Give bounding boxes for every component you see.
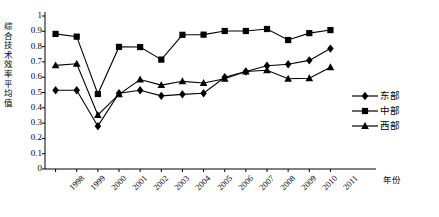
chart-container: 综合技术效率平均值 00.10.20.30.40.50.60.70.80.91 … (0, 0, 439, 217)
data-point (306, 56, 313, 64)
series-square (52, 26, 333, 97)
x-axis-title: 年份 (383, 173, 401, 185)
data-point (137, 86, 144, 94)
data-point (136, 75, 144, 82)
legend: 东部中部西部 (352, 88, 400, 133)
data-point (116, 44, 122, 50)
legend-marker-square-icon (352, 105, 378, 117)
data-point (52, 86, 59, 94)
legend-item-label: 西部 (380, 118, 400, 133)
legend-item-label: 东部 (380, 88, 400, 103)
data-point (327, 27, 333, 33)
data-point (137, 44, 143, 50)
data-point (306, 30, 312, 36)
data-point (74, 34, 80, 40)
legend-item[interactable]: 东部 (352, 88, 400, 103)
data-point (179, 77, 187, 84)
data-point (327, 63, 335, 70)
legend-marker-diamond-icon (352, 90, 378, 102)
data-point (285, 60, 292, 68)
data-point (285, 37, 291, 43)
series-triangle (52, 60, 335, 118)
data-point (52, 31, 58, 37)
data-point (222, 28, 228, 34)
legend-item-label: 中部 (380, 103, 400, 118)
data-point (158, 92, 165, 100)
data-point (263, 66, 271, 73)
data-point (264, 26, 270, 32)
data-point (95, 91, 101, 97)
data-point (179, 90, 186, 98)
legend-item[interactable]: 中部 (352, 103, 400, 118)
data-point (327, 44, 334, 52)
data-point (200, 32, 206, 38)
data-point (179, 32, 185, 38)
data-point (158, 57, 164, 63)
data-point (73, 60, 81, 67)
data-point (305, 74, 313, 81)
legend-item[interactable]: 西部 (352, 118, 400, 133)
data-point (200, 89, 207, 97)
data-point (243, 28, 249, 34)
legend-marker-triangle-icon (352, 120, 378, 132)
